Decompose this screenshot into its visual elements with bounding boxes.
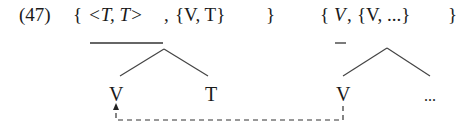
left-tree-right-branch [164, 49, 208, 76]
left-tree-leaf-v: V [109, 84, 123, 104]
right-tree-leaf-ellipsis: ... [424, 88, 436, 104]
tree-diagram-lines [0, 0, 475, 137]
left-tree-leaf-t: T [205, 84, 217, 104]
right-tree-left-branch [343, 48, 387, 76]
right-tree-leaf-v: V [336, 84, 350, 104]
right-tree-right-branch [387, 48, 430, 76]
movement-dashed-path [116, 106, 343, 120]
left-tree-left-branch [120, 49, 164, 76]
